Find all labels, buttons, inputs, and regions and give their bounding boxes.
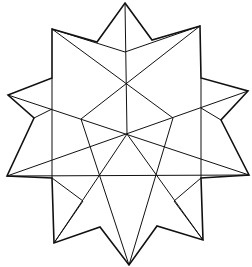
inner-edges bbox=[7, 3, 249, 265]
edge-line bbox=[52, 29, 173, 118]
edge-line bbox=[129, 118, 173, 265]
polyhedron-figure bbox=[0, 0, 252, 267]
edge-line bbox=[52, 29, 125, 52]
edge-line bbox=[52, 178, 83, 201]
edge-line bbox=[7, 91, 248, 176]
edge-line bbox=[54, 201, 83, 243]
edge-line bbox=[34, 109, 52, 118]
edge-line bbox=[174, 178, 201, 201]
edge-line bbox=[174, 201, 203, 240]
edge-line bbox=[7, 175, 249, 176]
edge-line bbox=[201, 108, 221, 120]
edge-line bbox=[125, 3, 127, 134]
edge-line bbox=[125, 26, 200, 52]
outline-polygon bbox=[7, 3, 249, 265]
star-polyhedron-drawing bbox=[0, 0, 252, 267]
